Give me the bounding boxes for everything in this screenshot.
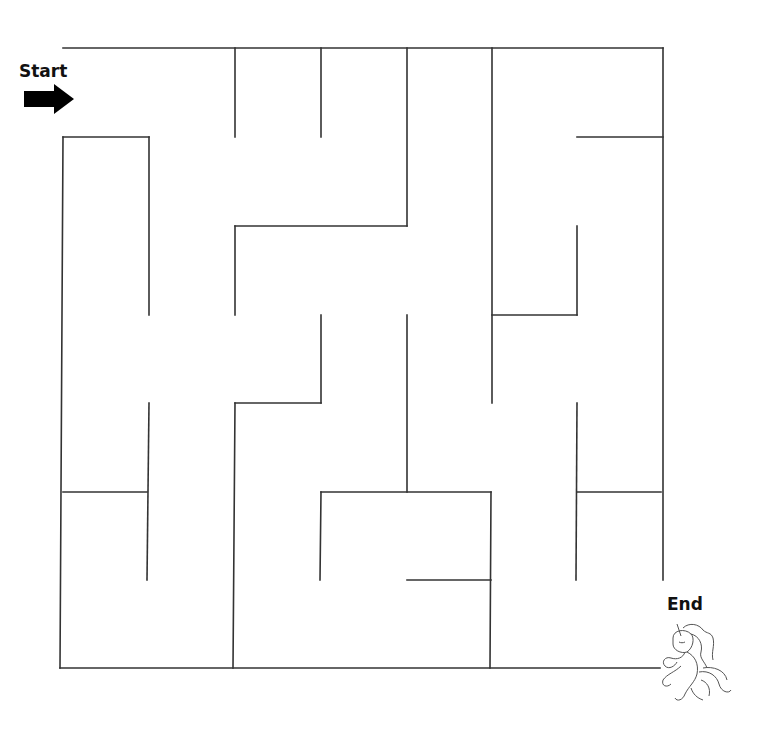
- arrow-right-icon: [24, 84, 76, 114]
- maze-wall: [60, 137, 63, 668]
- end-label: End: [667, 594, 703, 614]
- maze-wall: [320, 492, 321, 580]
- maze-wall: [233, 403, 235, 668]
- start-label: Start: [19, 61, 67, 81]
- maze-grid: [0, 0, 758, 739]
- unicorn-icon: [655, 618, 735, 706]
